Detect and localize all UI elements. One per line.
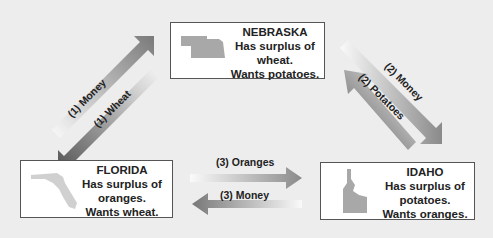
- label-oranges-3: (3) Oranges: [216, 156, 275, 168]
- florida-box: FLORIDA Has surplus of oranges. Wants wh…: [20, 160, 173, 218]
- idaho-map-icon: [343, 169, 369, 215]
- arrow-oranges-3: [190, 167, 302, 189]
- nebraska-line2: wheat.: [225, 53, 325, 67]
- florida-line2: oranges.: [71, 191, 173, 205]
- nebraska-line1: Has surplus of: [225, 39, 325, 53]
- nebraska-map-icon: [181, 36, 227, 60]
- idaho-line2: potatoes.: [375, 193, 475, 207]
- nebraska-name: NEBRASKA: [225, 25, 325, 39]
- nebraska-box: NEBRASKA Has surplus of wheat. Wants pot…: [170, 22, 325, 79]
- idaho-line3: Wants oranges.: [375, 207, 475, 221]
- label-money-3: (3) Money: [220, 189, 269, 201]
- florida-line1: Has surplus of: [71, 177, 173, 191]
- nebraska-line3: Wants potatoes.: [225, 67, 325, 81]
- idaho-box: IDAHO Has surplus of potatoes. Wants ora…: [320, 162, 475, 220]
- florida-name: FLORIDA: [71, 163, 173, 177]
- florida-line3: Wants wheat.: [71, 205, 173, 219]
- idaho-line1: Has surplus of: [375, 179, 475, 193]
- idaho-name: IDAHO: [375, 165, 475, 179]
